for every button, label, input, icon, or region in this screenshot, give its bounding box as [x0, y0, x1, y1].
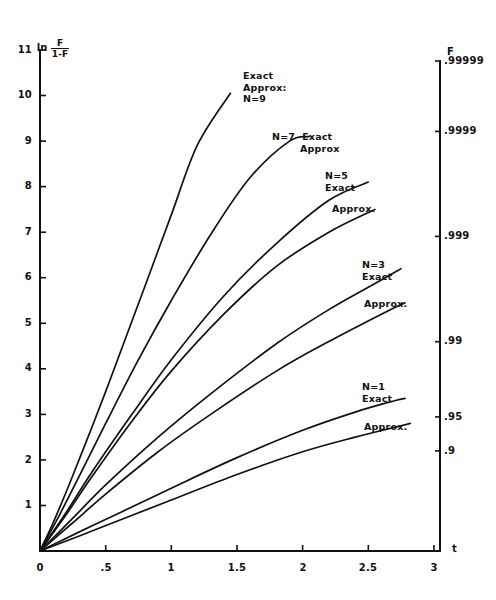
- right-ticklabel-9999: .9999: [444, 125, 477, 137]
- y-ticklabel-9: 9: [10, 135, 32, 147]
- x-ticklabel-2: 2: [288, 562, 318, 574]
- x-ticklabel-15: 1.5: [222, 562, 252, 574]
- x-ticklabel-0: 0: [25, 562, 55, 574]
- annotation-n3-approx: Approx.: [364, 298, 407, 310]
- annotation-n5-exact: N=5 Exact: [325, 170, 355, 193]
- y-ticklabel-4: 4: [10, 362, 32, 374]
- data-curves: [40, 93, 410, 551]
- annotation-n7: N=7 Exact Approx: [272, 131, 340, 154]
- y-ticklabel-6: 6: [10, 271, 32, 283]
- y-ticklabel-8: 8: [10, 180, 32, 192]
- right-ticklabel-9: .9: [444, 445, 455, 457]
- right-ticklabel-99999: .99999: [444, 55, 484, 67]
- annotation-n1-approx: Approx.: [364, 421, 407, 433]
- y-ticklabel-1: 1: [10, 499, 32, 511]
- right-ticklabel-95: .95: [444, 411, 462, 423]
- y-ticklabel-2: 2: [10, 454, 32, 466]
- chart-figure: lnF1-F F t: [0, 0, 496, 600]
- annotation-n9: Exact Approx: N=9: [243, 70, 287, 105]
- x-ticklabel-3: 3: [419, 562, 449, 574]
- y-ticklabel-5: 5: [10, 317, 32, 329]
- curve-5: [40, 303, 405, 551]
- right-ticklabel-999: .999: [444, 230, 469, 242]
- y-ticklabel-11: 11: [10, 44, 32, 56]
- right-ticklabel-99: .99: [444, 335, 462, 347]
- annotation-n5-approx: Approx.: [332, 203, 375, 215]
- x-ticklabel-1: 1: [156, 562, 186, 574]
- annotation-n3-exact: N=3 Exact: [362, 259, 392, 282]
- annotation-n1-exact: N=1 Exact: [362, 381, 392, 404]
- curve-4: [40, 269, 401, 551]
- x-ticklabel-25: 2.5: [353, 562, 383, 574]
- y-ticklabel-10: 10: [10, 89, 32, 101]
- y-ticklabel-7: 7: [10, 226, 32, 238]
- y-ticklabel-3: 3: [10, 408, 32, 420]
- x-ticklabel-05: .5: [91, 562, 121, 574]
